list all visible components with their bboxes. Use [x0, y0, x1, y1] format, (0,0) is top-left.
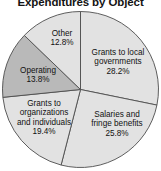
pie-svg [0, 5, 161, 171]
pie-slice-0 [81, 12, 159, 106]
pie-chart: Expenditures by Object Grants to local g… [0, 0, 161, 171]
pie-slice-group [2, 12, 158, 168]
